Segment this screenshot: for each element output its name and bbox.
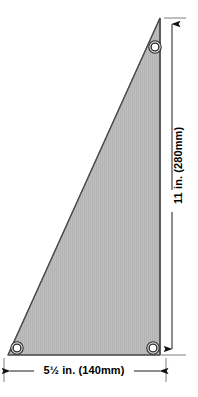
grommet-top-right (149, 41, 161, 53)
horizontal-dimension-label: 5½ in. (140mm) (0, 364, 168, 376)
vertical-dimension-label: 11 in. (280mm) (172, 127, 184, 204)
diagram-canvas (0, 0, 198, 397)
triangle-panel (8, 18, 160, 355)
horizontal-dimension-label-text: 5½ in. (140mm) (41, 364, 128, 376)
dimension-diagram: 11 in. (280mm) 5½ in. (140mm) (0, 0, 198, 397)
grommet-bottom-left (11, 342, 23, 354)
grommet-bottom-right (147, 342, 159, 354)
